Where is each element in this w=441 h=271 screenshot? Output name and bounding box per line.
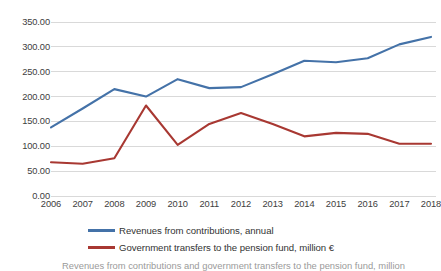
legend-color-swatch: [88, 246, 115, 249]
y-tick-label: 350.00: [4, 17, 50, 27]
x-tick-label: 2014: [294, 199, 314, 210]
chart-plot-svg: [0, 0, 438, 218]
x-axis-tick-labels: 2006200720082009201020112012201320142015…: [0, 197, 438, 217]
y-tick-label: 50.00: [4, 166, 50, 176]
legend-item-2[interactable]: Government transfers to the pension fund…: [0, 239, 438, 256]
x-tick-label: 2016: [358, 199, 378, 210]
x-tick-label: 2013: [263, 199, 283, 210]
x-tick-label: 2008: [104, 199, 124, 210]
x-tick-label: 2009: [136, 199, 156, 210]
legend-item-1[interactable]: Revenues from contributions, annual: [0, 222, 438, 239]
series-lines: [51, 37, 431, 164]
y-tick-label: 300.00: [4, 42, 50, 52]
series-line-2: [51, 106, 431, 164]
legend-item-label: Government transfers to the pension fund…: [119, 242, 334, 253]
y-tick-label: 100.00: [4, 141, 50, 151]
y-tick-label: 200.00: [4, 92, 50, 102]
x-tick-label: 2015: [326, 199, 346, 210]
x-tick-label: 2006: [41, 199, 61, 210]
y-axis-tick-labels: 0.0050.00100.00150.00200.00250.00300.003…: [0, 0, 50, 218]
figure-caption-text: Revenues from contributions and governme…: [62, 262, 405, 271]
x-tick-label: 2012: [231, 199, 251, 210]
chart-legend: Revenues from contributions, annualGover…: [0, 222, 438, 256]
x-tick-label: 2011: [200, 199, 220, 210]
gridlines: [51, 22, 436, 196]
y-tick-label: 150.00: [4, 116, 50, 126]
x-tick-label: 2018: [421, 199, 441, 210]
figure-caption-clipped: Revenues from contributions and governme…: [0, 262, 438, 271]
legend-color-swatch: [88, 229, 115, 232]
legend-item-label: Revenues from contributions, annual: [119, 225, 274, 236]
plot-area: 0.0050.00100.00150.00200.00250.00300.003…: [0, 0, 438, 218]
y-tick-label: 250.00: [4, 67, 50, 77]
x-tick-label: 2010: [168, 199, 188, 210]
x-tick-label: 2007: [73, 199, 93, 210]
x-tick-label: 2017: [389, 199, 409, 210]
